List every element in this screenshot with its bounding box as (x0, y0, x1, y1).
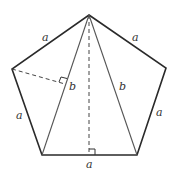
label-side-right: a (156, 106, 163, 119)
label-side-bottom: a (86, 158, 93, 171)
right-angle-mark-left (59, 77, 67, 82)
label-side-top-right: a (132, 31, 139, 44)
diagonal-left (42, 15, 89, 155)
pentagon-diagram: a a a a a b b (0, 0, 176, 173)
label-diagonal-right: b (119, 80, 126, 93)
right-angle-mark-bottom (89, 149, 95, 155)
label-side-top-left: a (42, 31, 49, 44)
perpendicular-dashed (12, 69, 65, 84)
label-side-left: a (16, 109, 23, 122)
diagonal-right (89, 15, 137, 155)
label-diagonal-left: b (69, 80, 76, 93)
